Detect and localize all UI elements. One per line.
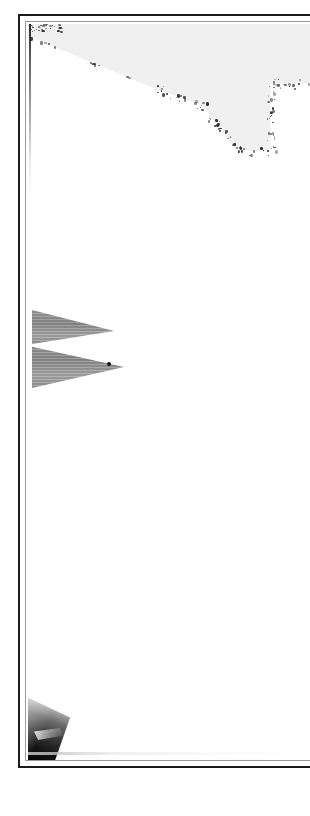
left-vertical-scan-line-artifact [29,24,31,196]
upper-wedge-artifact [32,310,114,344]
wedge-ink-dot [107,362,111,366]
page-content-area [26,22,310,760]
bottom-dark-triangle-artifact [28,684,96,760]
bottom-grey-smudge-artifact [28,752,308,755]
scanned-page [0,0,310,816]
top-grey-polygon-artifact [28,24,310,156]
